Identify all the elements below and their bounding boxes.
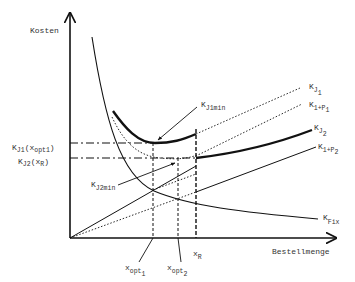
arrow-kj2min [118,163,175,185]
line-k1p2-solid-origin [70,166,196,238]
label-kj2min: KJ2min [91,180,115,192]
x-axis-label: Bestellmenge [272,247,330,256]
label-y-kj2-xr: KJ2(xR) [18,157,49,168]
line-dotted-mid [153,174,196,190]
label-kj1min: KJ1min [201,100,225,112]
label-xopt1: xopt1 [125,263,146,278]
curve-k1p2 [196,147,316,192]
curve-kj2-thick [196,130,312,158]
label-k1p2: K1+P2 [318,142,339,156]
label-xopt2: xopt2 [167,263,188,278]
leader-xopt1 [139,238,153,262]
label-k1p1: K1+P1 [309,100,330,114]
leader-xopt2 [178,238,181,262]
curve-k1p1-dotted [112,104,302,159]
label-kj2: KJ2 [314,123,327,138]
cost-diagram: Kosten Bestellmenge KJ1 K1+P1 KJ2 K1+P2 … [0,0,355,282]
label-y-kj1-xopt1: KJ1(xopt1) [12,143,55,154]
label-kj1: KJ1 [309,82,322,97]
curve-kj1-thick [113,111,196,143]
label-kfix: KFix [323,213,340,226]
y-axis-label: Kosten [30,26,59,35]
label-xr: xR [193,249,202,261]
